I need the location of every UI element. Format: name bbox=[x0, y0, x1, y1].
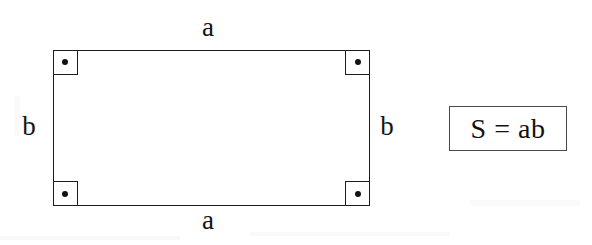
scan-artifact bbox=[250, 232, 450, 236]
right-angle-marker-top-left bbox=[53, 50, 78, 75]
right-angle-dot-icon bbox=[355, 59, 361, 65]
rectangle-area-figure: a a b b S = ab bbox=[0, 0, 592, 245]
right-angle-marker-top-right bbox=[345, 50, 370, 75]
right-angle-marker-bottom-left bbox=[53, 181, 78, 206]
side-label-top: a bbox=[178, 14, 238, 41]
area-formula-text: S = ab bbox=[471, 115, 546, 143]
side-label-left: b bbox=[16, 113, 42, 140]
right-angle-dot-icon bbox=[62, 59, 68, 65]
rectangle-outline bbox=[53, 50, 370, 206]
right-angle-dot-icon bbox=[62, 191, 68, 197]
side-label-right: b bbox=[374, 113, 400, 140]
scan-artifact bbox=[470, 200, 580, 206]
side-label-bottom: a bbox=[178, 207, 238, 234]
right-angle-marker-bottom-right bbox=[345, 181, 370, 206]
scan-artifact bbox=[0, 236, 180, 240]
right-angle-dot-icon bbox=[355, 191, 361, 197]
area-formula-box: S = ab bbox=[449, 106, 567, 151]
